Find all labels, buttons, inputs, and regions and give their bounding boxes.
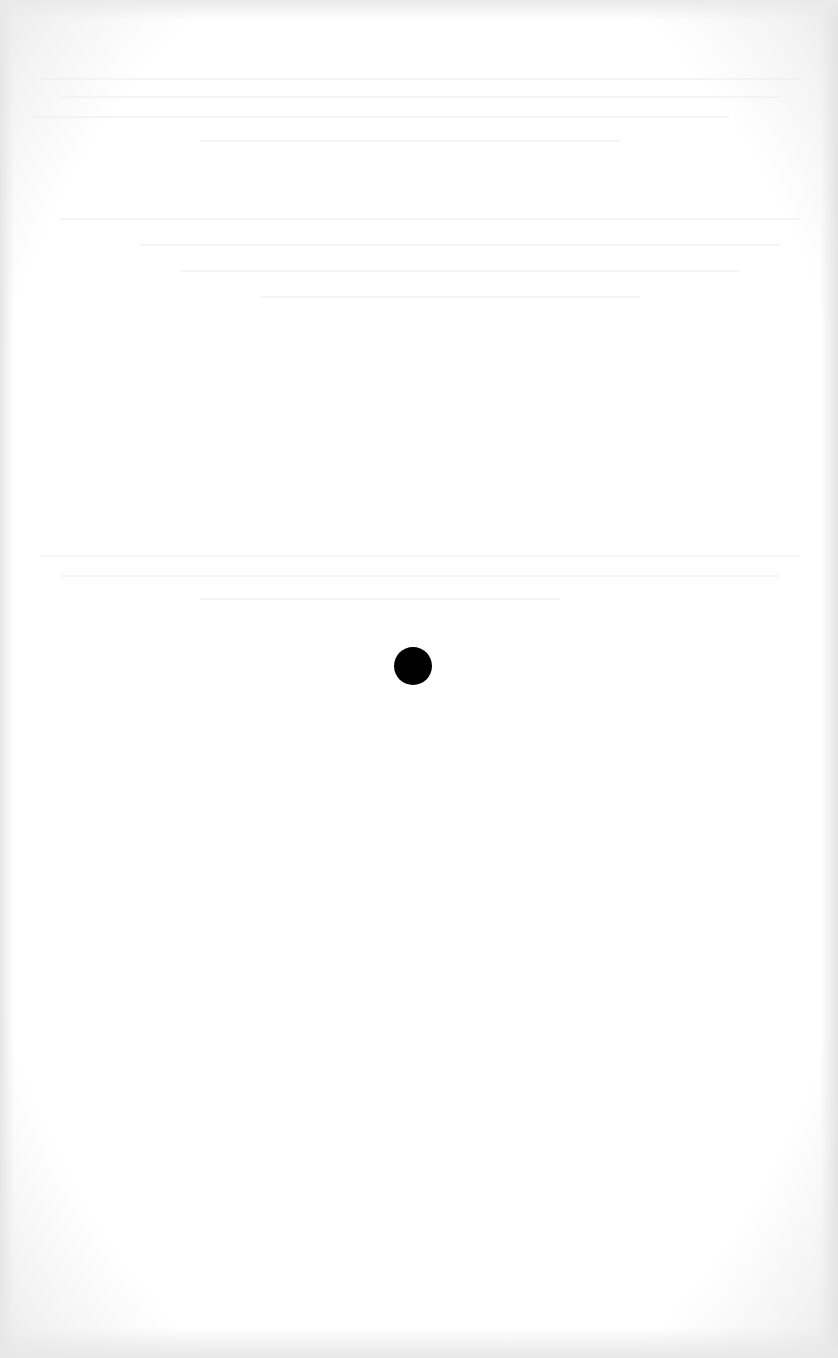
show-through-line — [260, 296, 640, 298]
show-through-line — [40, 555, 800, 557]
show-through-line — [40, 78, 800, 80]
show-through-line — [180, 270, 740, 272]
show-through-line — [200, 598, 560, 600]
show-through-line — [200, 140, 620, 142]
scan-shadow-right — [820, 0, 838, 1358]
show-through-line — [60, 218, 800, 220]
show-through-line — [60, 575, 780, 577]
show-through-line — [140, 244, 780, 246]
scan-shadow-bottom — [0, 1328, 838, 1358]
scanned-blank-page — [0, 0, 838, 1358]
scan-shadow-left — [0, 0, 14, 1358]
scan-shadow-top — [0, 0, 838, 20]
show-through-line — [30, 116, 730, 118]
show-through-line — [60, 96, 780, 98]
black-dot-mark — [394, 647, 432, 685]
